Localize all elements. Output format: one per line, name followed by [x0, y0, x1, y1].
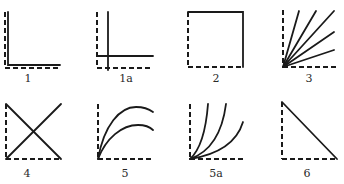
- panel-label: 3: [306, 72, 313, 85]
- panel-5: 5: [98, 104, 154, 180]
- panel-label: 5a: [209, 167, 223, 180]
- panel-label: 1a: [119, 72, 133, 85]
- panel-6: 6: [282, 102, 337, 180]
- solid-upper-curve: [98, 107, 153, 159]
- panel-label: 4: [24, 167, 31, 180]
- panel-label: 2: [213, 72, 220, 85]
- solid-ray: [283, 11, 316, 67]
- panel-5a: 5a: [190, 104, 245, 180]
- solid-shallow-curve: [190, 122, 243, 159]
- panel-label: 1: [25, 72, 32, 85]
- panel-4: 4: [6, 104, 61, 180]
- panel-1: 1: [5, 12, 60, 85]
- panel-1a: 1a: [97, 12, 153, 85]
- diagram-figure: 1 1a 2 3 4 5: [0, 0, 344, 184]
- panel-2: 2: [188, 12, 243, 85]
- solid-hypotenuse: [282, 102, 337, 159]
- panel-label: 5: [122, 167, 129, 180]
- solid-top-right-sides: [188, 12, 243, 67]
- panel-label: 6: [304, 167, 311, 180]
- solid-l-line: [8, 12, 60, 65]
- panel-3: 3: [283, 10, 336, 85]
